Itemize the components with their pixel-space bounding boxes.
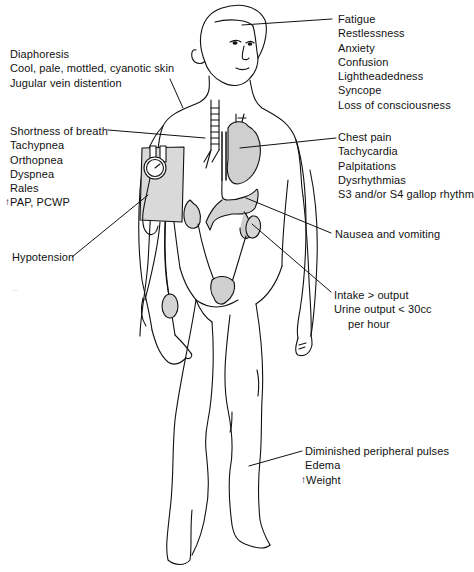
blood-pressure-cuff bbox=[140, 146, 184, 326]
label-line: Nausea and vomiting bbox=[335, 227, 440, 241]
label-line: Orthopnea bbox=[10, 153, 108, 167]
label-respiratory: Shortness of breath Tachypnea Orthopnea … bbox=[10, 124, 108, 211]
legs bbox=[167, 300, 270, 565]
label-peripheral: Diminished peripheral pulses Edema ↑Weig… bbox=[305, 444, 449, 488]
leader-renal bbox=[252, 224, 331, 292]
label-line: Lightheadedness bbox=[338, 69, 451, 83]
heart bbox=[227, 122, 260, 184]
label-line: Tachycardia bbox=[338, 144, 474, 158]
label-line: Confusion bbox=[338, 55, 451, 69]
label-renal: Intake > output Urine output < 30cc per … bbox=[334, 288, 432, 331]
leader-respiratory bbox=[108, 130, 205, 138]
label-line: Restlessness bbox=[338, 26, 451, 40]
label-text: PAP, PCWP bbox=[10, 196, 70, 208]
label-line: Loss of consciousness bbox=[338, 98, 451, 112]
label-line: Palpitations bbox=[338, 159, 474, 173]
label-line: per hour bbox=[334, 317, 432, 331]
label-cardiac: Chest pain Tachycardia Palpitations Dysr… bbox=[338, 130, 474, 201]
label-line: Rales bbox=[10, 181, 108, 195]
leader-neuro bbox=[242, 19, 332, 25]
label-line: Intake > output bbox=[334, 288, 432, 302]
label-line: Tachypnea bbox=[10, 138, 108, 152]
label-line: Fatigue bbox=[338, 12, 451, 26]
label-line: Diaphoresis bbox=[10, 47, 174, 61]
label-line: Urine output < 30cc bbox=[334, 302, 432, 316]
label-gi: Nausea and vomiting bbox=[335, 227, 440, 241]
label-skin: Diaphoresis Cool, pale, mottled, cyanoti… bbox=[10, 47, 174, 90]
label-line: Diminished peripheral pulses bbox=[305, 444, 449, 458]
label-line-arrow: ↑PAP, PCWP bbox=[5, 195, 108, 210]
organs bbox=[184, 100, 261, 304]
label-line: Shortness of breath bbox=[10, 124, 108, 138]
bulb bbox=[162, 294, 178, 318]
label-line-arrow: ↑Weight bbox=[301, 473, 449, 488]
label-line: Anxiety bbox=[338, 41, 451, 55]
up-arrow-icon: ↑ bbox=[5, 195, 10, 209]
label-line: Chest pain bbox=[338, 130, 474, 144]
label-line: Cool, pale, mottled, cyanotic skin bbox=[10, 61, 174, 75]
leader-peripheral bbox=[249, 451, 302, 466]
label-line: Hypotension bbox=[12, 250, 74, 264]
stray-mark-text: ... bbox=[12, 285, 18, 292]
up-arrow-icon: ↑ bbox=[301, 473, 306, 487]
label-text: Weight bbox=[306, 474, 341, 486]
head bbox=[192, 5, 267, 85]
label-blood-pressure: Hypotension bbox=[12, 250, 74, 264]
bladder bbox=[211, 276, 235, 304]
stray-mark: ... bbox=[12, 282, 18, 296]
kidney-right bbox=[246, 216, 261, 238]
label-line: Edema bbox=[305, 458, 449, 472]
label-line: Syncope bbox=[338, 83, 451, 97]
label-line: Dyspnea bbox=[10, 167, 108, 181]
label-line: S3 and/or S4 gallop rhythm bbox=[338, 187, 474, 201]
label-line: Dysrhythmias bbox=[338, 173, 474, 187]
label-line: Jugular vein distention bbox=[10, 76, 174, 90]
right-arm bbox=[296, 140, 318, 356]
label-neuro: Fatigue Restlessness Anxiety Confusion L… bbox=[338, 12, 451, 112]
